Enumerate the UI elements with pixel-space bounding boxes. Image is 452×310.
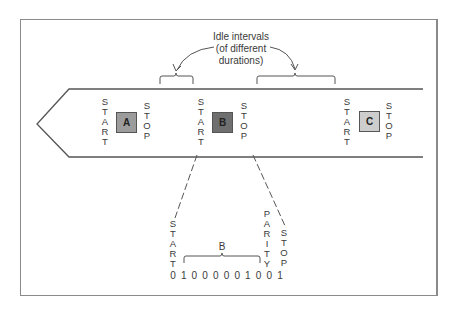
idle-brace-1 [160, 73, 193, 84]
data-bits-brace [184, 253, 260, 263]
bit-0: 0 [169, 270, 177, 281]
caption-line-3: durations) [196, 55, 286, 67]
expansion-data-label: B [214, 241, 230, 253]
char-a-start-label: START [101, 97, 109, 147]
char-c-stop-label: STOP [385, 101, 393, 141]
bit-10: 1 [276, 270, 284, 281]
expansion-start-label: START [169, 219, 177, 269]
char-b-box: B [212, 112, 233, 133]
expansion-line-left [175, 155, 197, 218]
char-c-start-label: START [343, 97, 351, 147]
idle-brace-2 [257, 73, 335, 84]
bit-5: 0 [223, 270, 231, 281]
char-b-stop-label: STOP [240, 101, 248, 141]
bit-6: 0 [233, 270, 241, 281]
char-c-box: C [359, 111, 380, 132]
caption-line-2: (of different [196, 43, 286, 55]
bit-4: 0 [212, 270, 220, 281]
idle-intervals-caption: Idle intervals (of different durations) [196, 31, 286, 67]
char-b-start-label: START [197, 97, 205, 147]
char-b-label: B [219, 117, 226, 128]
char-a-label: A [123, 117, 130, 128]
expansion-stop-label: STOP [280, 228, 288, 268]
bit-2: 0 [190, 270, 198, 281]
bit-8: 0 [255, 270, 263, 281]
bit-3: 0 [201, 270, 209, 281]
char-a-stop-label: STOP [143, 101, 151, 141]
char-c-label: C [366, 116, 373, 127]
bit-9: 0 [265, 270, 273, 281]
char-a-box: A [116, 112, 137, 133]
bit-1: 1 [180, 270, 188, 281]
expansion-parity-label: PARITY [263, 209, 271, 269]
caption-line-1: Idle intervals [196, 31, 286, 43]
bit-7: 1 [244, 270, 252, 281]
